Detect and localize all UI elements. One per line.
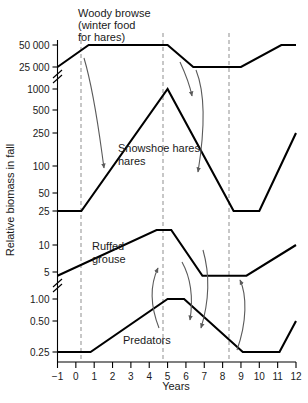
y-tick-label: 50 000 [19,40,50,51]
arrow-predators-to-grouse-right [237,280,245,350]
arrow-predators-to-grouse-up [152,268,159,328]
series-line-predators [58,299,297,352]
y-axis-ticks: 50 00025 000100050025010050251051.000.50… [19,40,58,358]
series-label-ruffed-grouse-line2: grouse [92,253,126,265]
x-tick-label: −1 [52,371,64,382]
woody-browse-caption-line3: for hares) [78,31,125,43]
woody-browse-caption-line1: Woody browse [78,7,151,19]
y-tick-label: 500 [33,105,50,116]
series-label-predators: Predators [123,334,171,346]
series-line-woody-browse [58,45,297,67]
x-tick-label: 1 [91,371,97,382]
y-tick-label: 0.50 [30,316,50,327]
x-tick-label: 8 [220,371,226,382]
x-tick-label: 0 [73,371,79,382]
arrow-grouse-to-predators-down [182,262,191,320]
x-tick-label: 3 [128,371,134,382]
population-cycle-chart: 50 00025 000100050025010050251051.000.50… [0,0,308,403]
y-tick-label: 25 000 [19,62,50,73]
x-tick-label: 2 [110,371,116,382]
x-axis-title: Years [162,380,190,392]
y-tick-label: 25 [38,206,50,217]
y-tick-label: 10 [38,240,50,251]
woody-browse-caption-line2: (winter food [78,19,135,31]
x-tick-label: 7 [201,371,207,382]
series-label-ruffed-grouse-line1: Ruffed [92,240,124,252]
y-tick-label: 5 [44,267,50,278]
vertical-marker-lines [81,33,229,362]
y-tick-label: 50 [38,188,50,199]
x-tick-label: 11 [272,371,283,382]
x-tick-label: 9 [238,371,244,382]
arrow-hares-to-browse [196,70,203,172]
y-tick-label: 1000 [27,84,50,95]
x-tick-label: 10 [254,371,266,382]
x-tick-label: 4 [146,371,152,382]
arrow-browse-to-hares-up [84,58,104,168]
y-tick-label: 250 [33,128,50,139]
chart-figure: 50 00025 000100050025010050251051.000.50… [0,0,308,403]
series-label-snowshoe-hares-line2: hares [118,155,146,167]
x-tick-label: 12 [290,371,302,382]
interaction-arrows [84,58,245,350]
y-tick-label: 0.25 [30,347,50,358]
y-tick-label: 1.00 [30,294,50,305]
x-axis-ticks: −10123456789101112 [52,362,302,382]
arrow-browse-to-hares-down [180,62,192,96]
y-tick-label: 100 [33,161,50,172]
y-axis-title: Relative biomass in fall [4,144,16,257]
series-label-snowshoe-hares-line1: Snowshoe hares [118,142,200,154]
